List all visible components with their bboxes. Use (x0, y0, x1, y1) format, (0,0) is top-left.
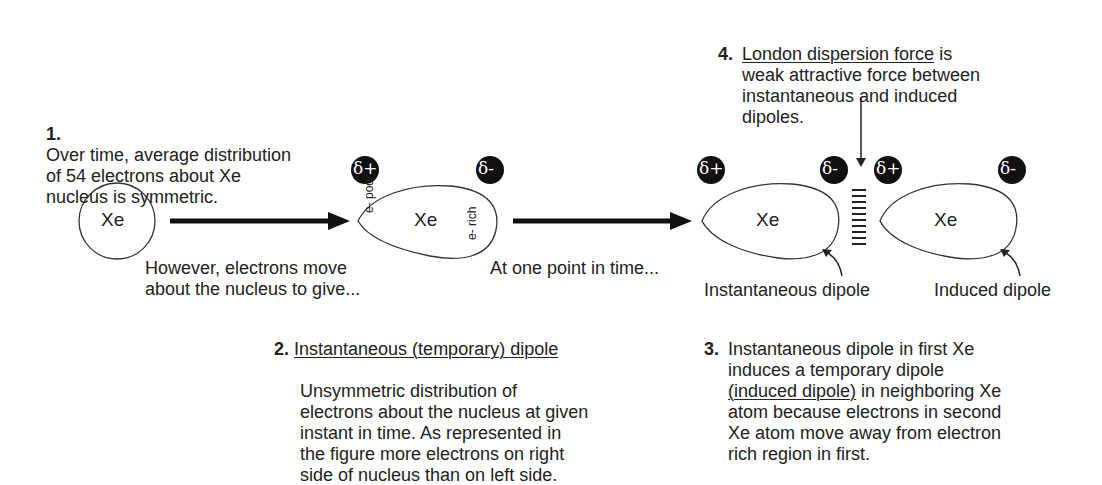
atom-symbol-induced: Xe (934, 209, 957, 231)
step-3-body-start: Instantaneous dipole in first Xe induces… (728, 339, 974, 380)
callout-arrow-instantaneous-icon (822, 249, 842, 276)
charge-negative-3: δ- (1000, 158, 1016, 178)
charge-negative-1: δ- (478, 158, 494, 178)
step-3-number: 3. (704, 339, 728, 465)
atom-symbol-instantaneous: Xe (756, 209, 779, 231)
step-4-title: London dispersion force (742, 44, 934, 64)
step-2-title: Instantaneous (temporary) dipole (294, 339, 558, 359)
step-2-text: 2. Instantaneous (temporary) dipole Unsy… (274, 318, 694, 485)
charge-positive-3: δ+ (876, 158, 900, 178)
attraction-lines (852, 190, 866, 244)
step-2-body: Unsymmetric distribution of electrons ab… (274, 381, 694, 485)
atom-symbol-symmetric: Xe (101, 209, 124, 231)
callout-arrow-induced-icon (1000, 249, 1020, 276)
step-1-text: 1. Over time, average distribution of 54… (24, 103, 376, 208)
step-4-text: 4. London dispersion force is weak attra… (718, 23, 1038, 149)
step-1-number: 1. (46, 124, 61, 144)
atom-symbol-dipole: Xe (414, 209, 437, 231)
arrow-1-icon (170, 212, 350, 230)
e-rich-label: e- rich (465, 207, 479, 240)
step-3-underlined: (induced dipole) (728, 381, 856, 401)
charge-positive-2: δ+ (699, 158, 723, 178)
caption-instantaneous-dipole: Instantaneous dipole (704, 280, 870, 301)
charge-negative-2: δ- (822, 158, 838, 178)
caption-electrons-move: However, electrons move about the nucleu… (145, 258, 360, 300)
caption-induced-dipole: Induced dipole (934, 280, 1051, 301)
step-4-number: 4. (718, 44, 742, 128)
step-1-body: Over time, average distribution of 54 el… (46, 145, 291, 207)
charge-badges (351, 156, 1026, 184)
step-2-number: 2. (274, 339, 289, 359)
arrow-2-icon (513, 212, 692, 230)
step-3-text: 3. Instantaneous dipole in first Xe indu… (704, 318, 1084, 485)
caption-point-in-time: At one point in time... (490, 258, 659, 279)
